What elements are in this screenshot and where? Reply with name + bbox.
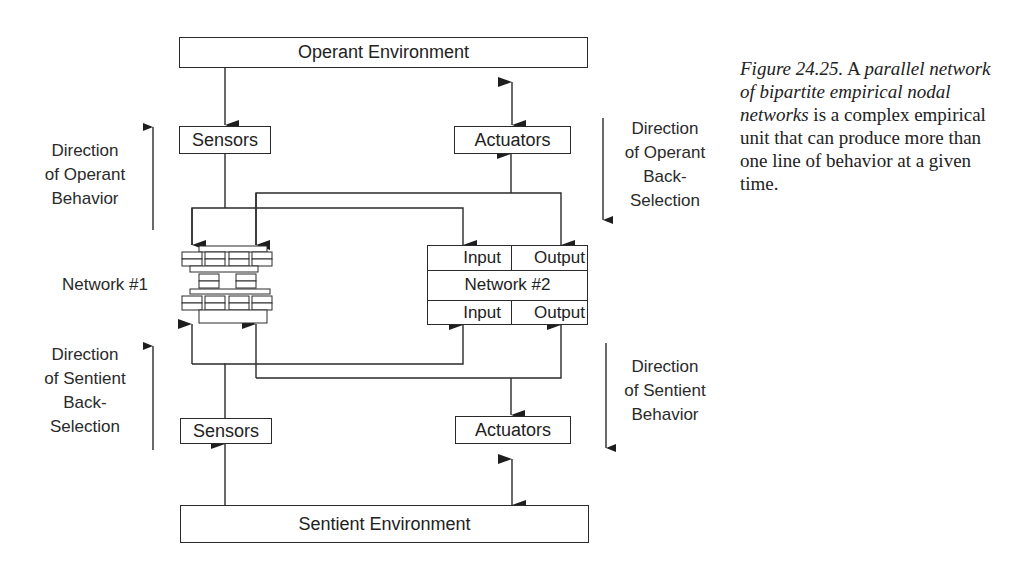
operant-environment-box: Operant Environment [179, 37, 588, 68]
sentient-environment-box: Sentient Environment [180, 505, 589, 543]
operant-environment-label: Operant Environment [298, 42, 469, 63]
sensors-top-label: Sensors [192, 130, 258, 151]
sensors-bottom-label: Sensors [193, 421, 259, 442]
text-line: of Sentient [606, 379, 724, 403]
direction-sentient-back-selection: Direction of Sentient Back- Selection [25, 343, 145, 439]
network2-box: Input Output Network #2 Input Output [427, 245, 588, 325]
text-line: Behavior [606, 403, 724, 427]
caption-lead: A [847, 58, 860, 79]
direction-operant-back-selection: Direction of Operant Back- Selection [606, 117, 724, 213]
network1-label: Network #1 [55, 273, 155, 297]
actuators-top-label: Actuators [474, 130, 550, 151]
sensors-top-box: Sensors [179, 126, 271, 154]
text-line: Direction [606, 117, 724, 141]
text-line: Selection [606, 189, 724, 213]
figure-caption: Figure 24.25. A parallel network of bipa… [740, 57, 1000, 195]
direction-sentient-behavior: Direction of Sentient Behavior [606, 355, 724, 427]
network2-top-input: Input [428, 246, 512, 270]
text-line: Direction [606, 355, 724, 379]
text-line: Direction [25, 343, 145, 367]
sensors-bottom-box: Sensors [180, 418, 272, 444]
text-line: Back- [606, 165, 724, 189]
network2-bottom-input: Input [428, 301, 512, 325]
actuators-bottom-label: Actuators [475, 420, 551, 441]
text-line: of Operant [606, 141, 724, 165]
text-line: of Sentient [25, 367, 145, 391]
actuators-bottom-box: Actuators [455, 416, 571, 444]
sentient-environment-label: Sentient Environment [298, 514, 470, 535]
network1-mesh [182, 246, 272, 323]
text-line: Selection [25, 415, 145, 439]
text-line: Back- [25, 391, 145, 415]
text-line: Direction [25, 139, 145, 163]
actuators-top-box: Actuators [454, 126, 571, 154]
figure-label: Figure 24.25. [740, 58, 843, 79]
network2-title: Network #2 [465, 275, 551, 295]
network2-bottom-output: Output [512, 301, 587, 325]
text-line: Behavior [25, 187, 145, 211]
direction-operant-behavior: Direction of Operant Behavior [25, 139, 145, 211]
network2-top-output: Output [512, 246, 587, 270]
text-line: of Operant [25, 163, 145, 187]
